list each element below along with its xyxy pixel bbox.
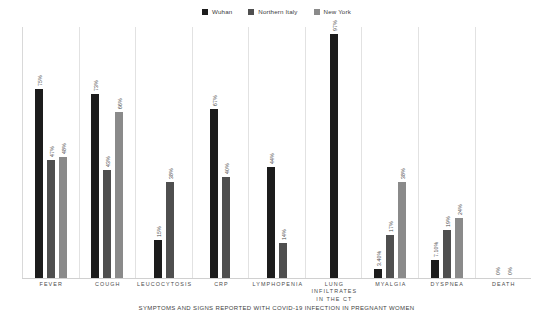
- bar-value-label: 15%: [156, 227, 162, 238]
- bar-value-label: 24%: [457, 204, 463, 215]
- x-axis-tick-label: CRP: [193, 281, 249, 303]
- bar-value-label: 38%: [168, 169, 174, 180]
- x-axis-tick-label: FEVER: [23, 281, 79, 303]
- bar[interactable]: [91, 94, 99, 278]
- x-axis-tick-label: DYSPNEA: [419, 281, 475, 303]
- bar-value-label: 48%: [61, 143, 67, 154]
- bar-slot: 43%: [103, 27, 111, 278]
- x-axis-tick-label: MYALGIA: [363, 281, 419, 303]
- bar-slot: 24%: [455, 27, 463, 278]
- bar-slot: 47%: [47, 27, 55, 278]
- x-axis-tick-label: COUGH: [79, 281, 135, 303]
- bar-slot: 66%: [115, 27, 123, 278]
- bar[interactable]: [279, 243, 287, 278]
- bar-value-label: 0%: [496, 267, 502, 275]
- bar[interactable]: [59, 157, 67, 278]
- bar-slot: 3.40%: [374, 27, 382, 278]
- bar-group: 3.40%17%38%: [362, 27, 419, 278]
- square-swatch-icon: [202, 9, 208, 15]
- bar[interactable]: [154, 240, 162, 278]
- x-axis-tick-label: LEUCOCYTOSIS: [136, 281, 193, 303]
- bar-slot: 48%: [59, 27, 67, 278]
- bar[interactable]: [35, 89, 43, 278]
- bar-group: 44%14%: [249, 27, 306, 278]
- bar-value-label: 97%: [332, 20, 338, 31]
- bar[interactable]: [374, 269, 382, 278]
- bar-value-label: 66%: [118, 98, 124, 109]
- bar[interactable]: [103, 170, 111, 278]
- bar-group: 67%40%: [193, 27, 250, 278]
- x-axis-category-labels: FEVERCOUGHLEUCOCYTOSISCRPLYMPHOPENIALUNG…: [23, 281, 532, 303]
- bar-slot: 40%: [222, 27, 230, 278]
- bar[interactable]: [398, 182, 406, 278]
- bar[interactable]: [386, 235, 394, 278]
- bar[interactable]: [222, 177, 230, 278]
- x-axis-tick-label: LYMPHOPENIA: [250, 281, 306, 303]
- square-swatch-icon: [314, 9, 320, 15]
- bar-group: 75%47%48%: [23, 27, 80, 278]
- legend-item-wuhan: Wuhan: [202, 8, 232, 15]
- bar-slot: 0%: [505, 27, 513, 278]
- bar[interactable]: [431, 260, 439, 278]
- bar-slot: 97%: [330, 27, 338, 278]
- bar-value-label: 43%: [106, 156, 112, 167]
- bar-value-label: 47%: [49, 146, 55, 157]
- bar-slot: 14%: [279, 27, 287, 278]
- square-swatch-icon: [248, 9, 254, 15]
- bar-slot: 15%: [154, 27, 162, 278]
- bar-value-label: 40%: [225, 164, 231, 175]
- bar[interactable]: [210, 109, 218, 278]
- bar[interactable]: [330, 34, 338, 278]
- bar[interactable]: [455, 218, 463, 278]
- x-axis-line: [22, 278, 531, 279]
- bar-slot: 44%: [267, 27, 275, 278]
- bar-value-label: 67%: [213, 95, 219, 106]
- chart-legend: Wuhan Northern Italy New York: [0, 8, 553, 15]
- legend-label: Northern Italy: [258, 8, 297, 15]
- bar[interactable]: [443, 230, 451, 278]
- bar-value-label: 44%: [269, 153, 275, 164]
- bar-group: 97%: [306, 27, 363, 278]
- bar-slot: 0%: [493, 27, 501, 278]
- bar-group: 7.10%19%24%: [419, 27, 476, 278]
- bar-value-label: 73%: [94, 80, 100, 91]
- bar[interactable]: [166, 182, 174, 278]
- bar-group: 0%0%: [476, 27, 532, 278]
- bar-value-label: 75%: [37, 75, 43, 86]
- legend-item-new-york: New York: [314, 8, 351, 15]
- bar-slot: 19%: [443, 27, 451, 278]
- bar-value-label: 7.10%: [433, 242, 439, 257]
- bar-slot: 17%: [386, 27, 394, 278]
- bar[interactable]: [267, 167, 275, 278]
- x-axis-title: SYMPTOMS AND SIGNS REPORTED WITH COVID-1…: [0, 305, 553, 311]
- bar-value-label: 17%: [389, 221, 395, 232]
- bar-value-label: 14%: [281, 229, 287, 240]
- bar-value-label: 3.40%: [377, 251, 383, 266]
- bar-slot: 75%: [35, 27, 43, 278]
- legend-label: New York: [324, 8, 351, 15]
- bar[interactable]: [115, 112, 123, 278]
- legend-item-northern-italy: Northern Italy: [248, 8, 297, 15]
- bar[interactable]: [47, 160, 55, 278]
- x-axis-tick-label: DEATH: [476, 281, 532, 303]
- bar-group: 15%38%: [136, 27, 193, 278]
- x-axis-tick-label: LUNG INFILTRATES IN THE CT: [306, 281, 362, 303]
- bar-slot: 7.10%: [431, 27, 439, 278]
- bar-slot: 38%: [166, 27, 174, 278]
- bar-group: 73%43%66%: [80, 27, 137, 278]
- bar-slot: 38%: [398, 27, 406, 278]
- bar-value-label: 38%: [401, 169, 407, 180]
- bar-value-label: 0%: [508, 267, 514, 275]
- legend-label: Wuhan: [212, 8, 232, 15]
- bar-value-label: 19%: [445, 216, 451, 227]
- bar-slot: 73%: [91, 27, 99, 278]
- bar-chart-plot-area: 75%47%48%73%43%66%15%38%67%40%44%14%97%3…: [22, 27, 531, 279]
- bar-groups: 75%47%48%73%43%66%15%38%67%40%44%14%97%3…: [23, 27, 531, 278]
- bar-slot: 67%: [210, 27, 218, 278]
